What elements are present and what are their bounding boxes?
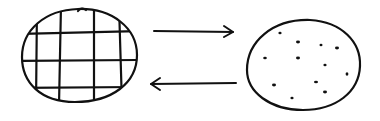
diagram-canvas xyxy=(0,0,380,121)
diagram-svg xyxy=(0,0,380,121)
right-circle-outline xyxy=(247,20,360,110)
grid-lines xyxy=(15,5,140,105)
gridded-circle xyxy=(15,5,140,105)
dots xyxy=(263,32,348,100)
dotted-circle xyxy=(247,20,360,110)
arrow-left-icon xyxy=(151,78,236,90)
arrow-right-icon xyxy=(154,26,233,37)
